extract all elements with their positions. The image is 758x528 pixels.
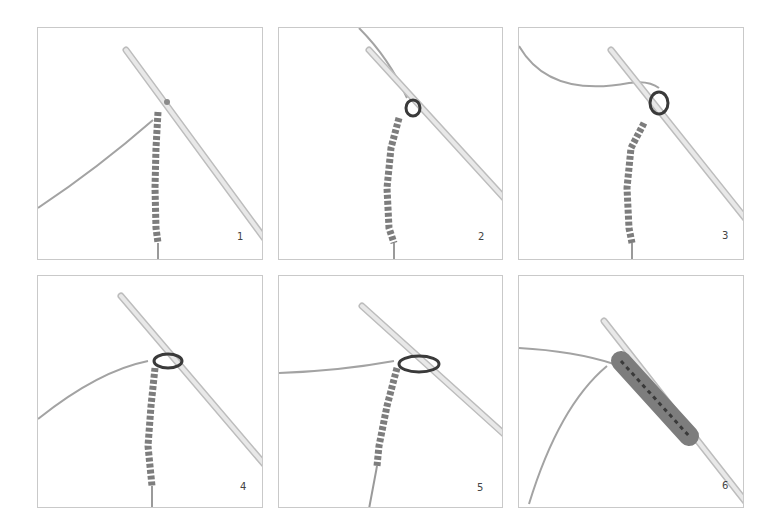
step-number: 1	[237, 231, 243, 242]
crochet-illustration-3	[519, 28, 744, 260]
step-number: 2	[478, 231, 484, 242]
crochet-illustration-4	[38, 276, 263, 508]
crochet-illustration-1	[38, 28, 263, 260]
crochet-illustration-2	[279, 28, 503, 260]
step-panel-2: 2	[278, 27, 503, 260]
step-number: 6	[722, 480, 728, 491]
crochet-illustration-6	[519, 276, 744, 508]
step-panel-6: 6	[518, 275, 744, 508]
step-number: 3	[722, 230, 728, 241]
step-panel-5: 5	[278, 275, 503, 508]
crochet-illustration-5	[279, 276, 503, 508]
step-panel-1: 1	[37, 27, 263, 260]
step-panel-4: 4	[37, 275, 263, 508]
step-number: 4	[240, 481, 246, 492]
step-number: 5	[477, 482, 483, 493]
step-panel-3: 3	[518, 27, 744, 260]
